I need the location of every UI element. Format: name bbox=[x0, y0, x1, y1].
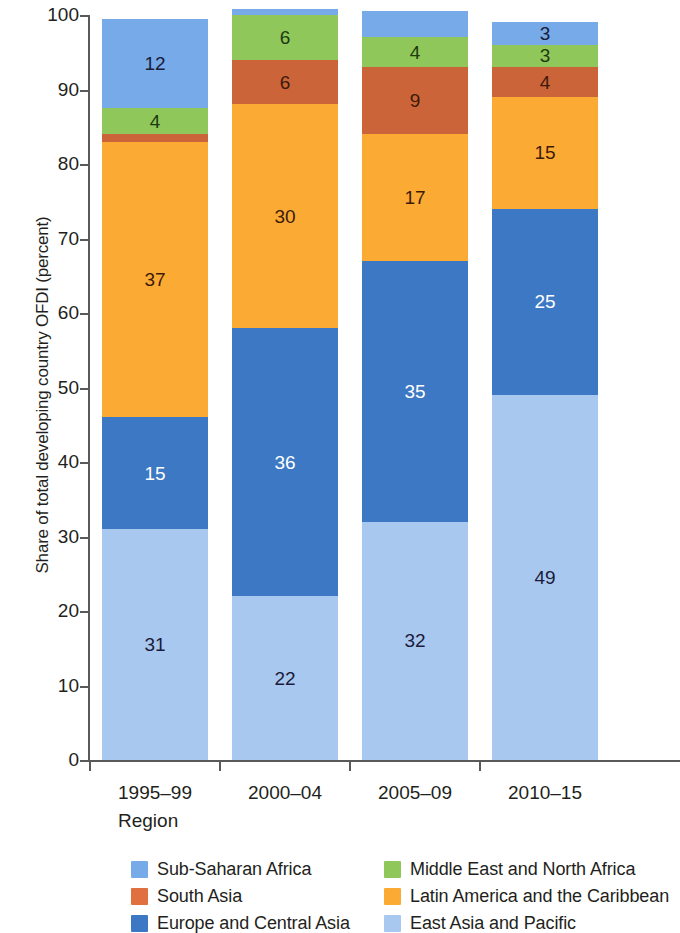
bar-segment: 6 bbox=[232, 15, 338, 60]
legend-item[interactable]: Middle East and North Africa bbox=[384, 859, 671, 880]
y-axis-line bbox=[88, 15, 90, 760]
legend-swatch-icon bbox=[131, 861, 148, 878]
bar-segment: 25 bbox=[492, 209, 598, 395]
bar-segment-value: 15 bbox=[534, 143, 555, 162]
bar-segment bbox=[232, 9, 338, 15]
y-axis-tick-label: 80 bbox=[58, 153, 79, 175]
legend-label: South Asia bbox=[157, 886, 242, 907]
y-axis-tick-label: 70 bbox=[58, 228, 79, 250]
bar-segment-value: 30 bbox=[274, 207, 295, 226]
y-axis-tick bbox=[80, 611, 88, 613]
y-axis-tick-label: 0 bbox=[68, 749, 79, 771]
legend-item[interactable]: East Asia and Pacific bbox=[384, 913, 671, 933]
legend-item[interactable]: Europe and Central Asia bbox=[131, 913, 384, 933]
y-axis-tick-label: 100 bbox=[47, 4, 79, 26]
bar-segment: 17 bbox=[362, 134, 468, 261]
bar-segment-value: 4 bbox=[150, 112, 161, 131]
bar-segment: 32 bbox=[362, 522, 468, 760]
y-axis-tick-label: 20 bbox=[58, 600, 79, 622]
bar-segment-value: 12 bbox=[144, 54, 165, 73]
bar-segment-value: 3 bbox=[540, 46, 551, 65]
bar-segment-value: 17 bbox=[404, 188, 425, 207]
x-axis-tick bbox=[349, 762, 351, 771]
bar-segment-value: 3 bbox=[540, 24, 551, 43]
y-axis-tick-label: 10 bbox=[58, 675, 79, 697]
bar-segment: 9 bbox=[362, 67, 468, 134]
y-axis-tick bbox=[80, 164, 88, 166]
bar-segment: 4 bbox=[362, 37, 468, 67]
legend-swatch-icon bbox=[384, 888, 401, 905]
chart-figure: Share of total developing country OFDI (… bbox=[0, 0, 680, 933]
bar-segment-value: 32 bbox=[404, 631, 425, 650]
y-axis-tick-label: 40 bbox=[58, 451, 79, 473]
legend-item[interactable]: South Asia bbox=[131, 886, 384, 907]
legend-swatch-icon bbox=[384, 861, 401, 878]
y-axis-tick bbox=[80, 313, 88, 315]
bar-segment-value: 22 bbox=[274, 669, 295, 688]
bar-segment: 35 bbox=[362, 261, 468, 522]
y-axis-tick bbox=[80, 15, 88, 17]
legend-label: Sub-Saharan Africa bbox=[157, 859, 311, 880]
bar-segment-value: 49 bbox=[534, 568, 555, 587]
legend-item[interactable]: Sub-Saharan Africa bbox=[131, 859, 384, 880]
bar-segment-value: 6 bbox=[280, 28, 291, 47]
y-axis-tick-label: 50 bbox=[58, 377, 79, 399]
y-axis-tick bbox=[80, 239, 88, 241]
legend-label: Latin America and the Caribbean bbox=[410, 886, 669, 907]
bar-segment-value: 9 bbox=[410, 91, 421, 110]
y-axis-tick bbox=[80, 537, 88, 539]
plot-area: 0102030405060708090100 31153741222363066… bbox=[88, 15, 680, 760]
y-axis-tick-label: 30 bbox=[58, 526, 79, 548]
y-axis-tick bbox=[80, 90, 88, 92]
y-axis-tick bbox=[80, 462, 88, 464]
bar-segment: 37 bbox=[102, 142, 208, 418]
x-axis-title: Region bbox=[118, 810, 178, 832]
stacked-bar: 492515433 bbox=[492, 22, 598, 760]
legend-swatch-icon bbox=[131, 888, 148, 905]
bar-segment-value: 4 bbox=[410, 43, 421, 62]
bar-segment: 12 bbox=[102, 19, 208, 108]
bar-segment-value: 35 bbox=[404, 382, 425, 401]
bar-segment bbox=[102, 134, 208, 141]
bar-segment-value: 25 bbox=[534, 292, 555, 311]
bar-segment-value: 6 bbox=[280, 73, 291, 92]
bar-segment: 36 bbox=[232, 328, 338, 596]
bar-segment: 4 bbox=[492, 67, 598, 97]
x-axis-tick bbox=[479, 762, 481, 771]
chart-legend: Sub-Saharan AfricaMiddle East and North … bbox=[131, 856, 671, 933]
bar-segment: 49 bbox=[492, 395, 598, 760]
y-axis-tick bbox=[80, 388, 88, 390]
bar-segment: 22 bbox=[232, 596, 338, 760]
x-axis-tick bbox=[219, 762, 221, 771]
stacked-bar: 22363066 bbox=[232, 9, 338, 760]
bar-segment bbox=[362, 11, 468, 37]
bar-segment-value: 37 bbox=[144, 270, 165, 289]
y-axis-tick bbox=[80, 686, 88, 688]
x-axis-line bbox=[88, 760, 680, 762]
bar-segment-value: 36 bbox=[274, 453, 295, 472]
y-axis-tick-label: 60 bbox=[58, 302, 79, 324]
y-axis-tick-label: 90 bbox=[58, 79, 79, 101]
bar-segment-value: 15 bbox=[144, 464, 165, 483]
bar-segment: 6 bbox=[232, 60, 338, 105]
bar-segment-value: 31 bbox=[144, 635, 165, 654]
bar-segment: 4 bbox=[102, 108, 208, 134]
y-axis-title: Share of total developing country OFDI (… bbox=[33, 95, 53, 695]
legend-label: East Asia and Pacific bbox=[410, 913, 576, 933]
bar-segment: 3 bbox=[492, 45, 598, 67]
legend-label: Middle East and North Africa bbox=[410, 859, 635, 880]
legend-swatch-icon bbox=[384, 915, 401, 932]
legend-label: Europe and Central Asia bbox=[157, 913, 350, 933]
legend-swatch-icon bbox=[131, 915, 148, 932]
bar-segment-value: 4 bbox=[540, 73, 551, 92]
y-axis-tick bbox=[80, 760, 88, 762]
stacked-bar: 311537412 bbox=[102, 19, 208, 760]
x-axis-tick-label: 2010–15 bbox=[465, 782, 625, 804]
bar-segment: 30 bbox=[232, 104, 338, 328]
bar-segment: 3 bbox=[492, 22, 598, 44]
stacked-bar: 32351794 bbox=[362, 11, 468, 760]
legend-item[interactable]: Latin America and the Caribbean bbox=[384, 886, 671, 907]
bar-segment: 15 bbox=[102, 417, 208, 529]
bar-segment: 15 bbox=[492, 97, 598, 209]
x-axis-tick bbox=[89, 762, 91, 771]
